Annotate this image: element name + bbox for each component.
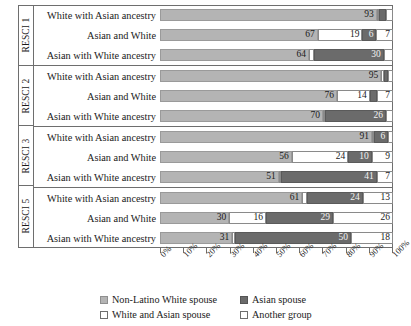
bar-row: 93 <box>160 5 393 25</box>
legend-item[interactable]: Another group <box>240 309 390 320</box>
bar-segment: 6 <box>374 131 388 143</box>
bar-segment-value: 61 <box>290 193 302 203</box>
group-axis-label-text: RESCI 1 <box>21 18 31 53</box>
bar-segment: 6 <box>362 29 376 41</box>
bar-stack: 916 <box>160 131 393 143</box>
bar-row: 671967 <box>160 25 393 45</box>
bar-row: 51417 <box>160 167 393 187</box>
row-label: Asian with White ancestry <box>34 45 160 65</box>
bar-segment-value: 10 <box>359 152 371 162</box>
bar-stack: 5624109 <box>160 151 393 163</box>
bar-segment: 10 <box>348 151 372 163</box>
bar-segment: 19 <box>318 29 363 41</box>
bar-row: 76147 <box>160 86 393 106</box>
bar-segment-value: 9 <box>385 152 392 162</box>
bar-segment: 30 <box>314 49 384 61</box>
x-axis-labels: 0%10%20%30%40%50%60%70%80%90%100% <box>160 252 393 286</box>
bar-row: 30162926 <box>160 208 393 228</box>
bar-segment-value: 41 <box>364 172 376 182</box>
bar-segment: 61 <box>160 192 302 204</box>
legend-swatch-icon <box>240 296 248 304</box>
bar-segment: 30 <box>160 212 229 224</box>
legend-label: Another group <box>252 309 312 320</box>
bar-row: 95 <box>160 66 393 86</box>
bar-segment: 24 <box>292 151 348 163</box>
bar-segment-value: 31 <box>220 233 232 243</box>
bar-segment-value: 16 <box>254 213 266 223</box>
bar-stack: 76147 <box>160 90 393 102</box>
bar-segment: 56 <box>160 151 292 163</box>
bar-stack: 6430 <box>160 49 393 61</box>
bar-segment: 24 <box>307 192 363 204</box>
bar-segment: 7 <box>376 29 392 41</box>
legend-swatch-icon <box>100 311 108 319</box>
bar-segment-value: 7 <box>385 91 392 101</box>
group-axis-label-3: RESCI 3 <box>18 125 34 185</box>
group-axis-label-text: RESCI 3 <box>21 138 31 173</box>
group-axis-label-1: RESCI 1 <box>18 5 34 65</box>
legend-label: White and Asian spouse <box>112 309 210 320</box>
bar-segment <box>379 9 386 21</box>
bar-segment <box>386 9 393 21</box>
row-label-group: White with Asian ancestryAsian and White… <box>34 126 160 187</box>
bar-segment: 13 <box>363 192 393 204</box>
bar-stack: 671967 <box>160 29 393 41</box>
row-label: White with Asian ancestry <box>34 127 160 147</box>
bars-column: 9367196764309576147702691656241095141761… <box>160 5 393 248</box>
bar-segment: 29 <box>266 212 333 224</box>
bar-segment-value: 70 <box>311 111 323 121</box>
bar-segment-value: 76 <box>325 91 337 101</box>
legend-label: Non-Latino White spouse <box>112 294 217 305</box>
legend-label: Asian spouse <box>252 294 306 305</box>
legend-item[interactable]: White and Asian spouse <box>100 309 228 320</box>
bars-group: 936719676430 <box>160 5 393 65</box>
bar-segment: 41 <box>281 171 377 183</box>
bar-segment-value: 56 <box>279 152 291 162</box>
bar-segment: 26 <box>325 110 386 122</box>
bar-segment: 31 <box>160 232 232 244</box>
bar-row: 916 <box>160 127 393 147</box>
bar-segment: 50 <box>235 232 352 244</box>
bar-segment <box>386 110 393 122</box>
bar-segment-value: 14 <box>357 91 369 101</box>
bar-segment-value: 51 <box>266 172 278 182</box>
legend-swatch-icon <box>100 296 108 304</box>
bar-segment-value: 30 <box>217 213 229 223</box>
bar-segment: 95 <box>160 70 381 82</box>
legend-swatch-icon <box>240 311 248 319</box>
group-axis: RESCI 1RESCI 2RESCI 3RESCI 5 <box>18 5 34 248</box>
bar-segment-value: 13 <box>380 193 392 203</box>
bars-group: 916562410951417 <box>160 126 393 187</box>
legend-item[interactable]: Asian spouse <box>240 294 390 305</box>
row-label-column: White with Asian ancestryAsian and White… <box>34 5 160 248</box>
bars-group: 61241330162926315018 <box>160 187 393 248</box>
bar-segment: 7 <box>377 90 393 102</box>
bar-segment-value: 64 <box>297 50 309 60</box>
bar-segment: 26 <box>333 212 393 224</box>
bar-segment-value: 6 <box>381 132 388 142</box>
x-axis-tick-label: 100% <box>390 238 411 259</box>
group-axis-label-4: RESCI 5 <box>18 185 34 245</box>
row-label: Asian with White ancestry <box>34 228 160 248</box>
bar-stack: 612413 <box>160 192 393 204</box>
bar-segment-value: 30 <box>371 50 383 60</box>
bar-segment: 51 <box>160 171 279 183</box>
bar-segment: 93 <box>160 9 377 21</box>
bar-row: 612413 <box>160 188 393 208</box>
bar-segment: 16 <box>229 212 266 224</box>
legend-item[interactable]: Non-Latino White spouse <box>100 294 228 305</box>
row-label: Asian and White <box>34 25 160 45</box>
row-label-group: White with Asian ancestryAsian and White… <box>34 5 160 65</box>
bar-segment-value: 95 <box>369 71 381 81</box>
row-label: Asian and White <box>34 147 160 167</box>
bar-stack: 51417 <box>160 171 393 183</box>
bar-segment-value: 7 <box>385 172 392 182</box>
bar-stack: 7026 <box>160 110 393 122</box>
group-axis-label-text: RESCI 2 <box>21 78 31 113</box>
bar-row: 6430 <box>160 45 393 65</box>
bar-segment <box>370 90 377 102</box>
bar-segment-value: 24 <box>336 152 348 162</box>
chart-legend: Non-Latino White spouseAsian spouseWhite… <box>100 292 390 324</box>
bar-segment-value: 67 <box>305 30 317 40</box>
